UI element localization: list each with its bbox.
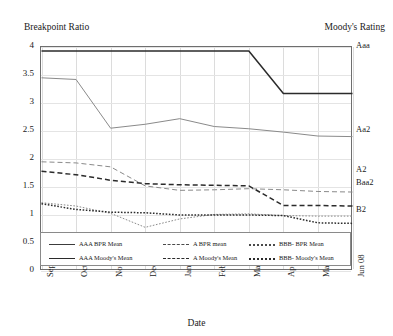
y-axis-title-left: Breakpoint Ratio	[24, 22, 89, 32]
legend-item: BBB- Moody's Mean	[249, 252, 334, 263]
series-line	[42, 162, 353, 192]
legend-label: BBB- BPR Mean	[279, 240, 324, 247]
series-line	[42, 78, 353, 137]
legend-label: BBB- Moody's Mean	[279, 254, 334, 261]
series-line	[42, 171, 353, 206]
series-line	[42, 203, 353, 228]
rating-tick-label: B2	[356, 204, 366, 214]
series-line	[42, 204, 353, 224]
y-axis-tick-label: 0.5	[4, 236, 34, 246]
series-line	[42, 51, 353, 94]
legend-item: BBB- BPR Mean	[249, 238, 324, 249]
y-axis-tick-label: 0	[4, 264, 34, 274]
legend-swatch	[163, 238, 189, 245]
legend-swatch	[249, 252, 275, 260]
rating-tick-label: Baa2	[356, 177, 373, 187]
breakpoint-ratio-chart: Breakpoint Ratio Moody's Rating 00.511.5…	[0, 0, 393, 336]
x-axis-title: Date	[0, 318, 393, 328]
legend-label: A BPR mean	[193, 240, 226, 247]
y-axis-tick-label: 1.5	[4, 180, 34, 190]
y-axis-tick-label: 2.5	[4, 124, 34, 134]
legend-swatch	[163, 252, 189, 259]
x-axis-tick-label: Jun 08	[356, 255, 366, 277]
y-axis-tick-label: 3	[4, 96, 34, 106]
legend-item: A BPR mean	[163, 238, 226, 248]
legend-item: AAA BPR Mean	[49, 238, 122, 248]
legend-label: A Moody's Mean	[193, 254, 237, 261]
legend-label: AAA Moody's Mean	[79, 254, 132, 261]
legend-swatch	[249, 238, 275, 246]
rating-tick-label: Aa2	[356, 124, 370, 134]
legend-item: AAA Moody's Mean	[49, 252, 132, 262]
legend-swatch	[49, 252, 75, 259]
legend-label: AAA BPR Mean	[79, 240, 122, 247]
rating-tick-label: Aaa	[356, 40, 370, 50]
legend-swatch	[49, 238, 75, 245]
legend-item: A Moody's Mean	[163, 252, 237, 262]
legend: AAA BPR MeanA BPR meanBBB- BPR MeanAAA M…	[40, 232, 351, 266]
y-axis-tick-label: 2	[4, 152, 34, 162]
y-axis-tick-label: 4	[4, 40, 34, 50]
rating-tick-label: A2	[356, 164, 366, 174]
y-axis-tick-label: 3.5	[4, 68, 34, 78]
y-axis-title-right: Moody's Rating	[324, 22, 385, 32]
y-axis-tick-label: 1	[4, 208, 34, 218]
